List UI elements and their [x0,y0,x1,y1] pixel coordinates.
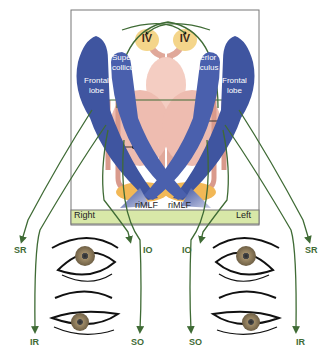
muscle-label-sr-left-eye: SR [305,245,318,255]
muscle-label-io-left-eye: IO [182,245,192,255]
nucleus-iv-right-label: IV [175,32,195,44]
right-eye-upgaze [52,238,118,281]
superior-colliculus-left-label: Superior colliculus [112,53,144,73]
frontal-lobe-left-label: Frontal lobe [84,76,109,96]
left-eye-upgaze [213,238,279,281]
frontal-lobe-right-label: Frontal lobe [222,76,247,96]
muscle-label-so-left-eye: SO [189,337,202,347]
muscle-label-so-right-eye: SO [131,337,144,347]
muscle-label-io-right-eye: IO [143,245,153,255]
muscle-label-sr-right-eye: SR [14,245,27,255]
nucleus-iv-left-label: IV [137,32,157,44]
muscle-label-ir-left-eye: IR [296,337,305,347]
side-label-right: Right [74,210,95,220]
muscle-label-ir-right-eye: IR [30,337,39,347]
side-bar [71,210,259,224]
side-label-left: Left [236,210,251,220]
superior-colliculus-right-label: Superior colliculus [186,53,218,73]
right-eye-downgaze [52,292,118,335]
vertical-gaze-diagram [0,0,331,358]
rimlf-left-label: riMLF [135,200,158,210]
rimlf-right-label: riMLF [168,200,191,210]
left-eye-downgaze [213,292,279,335]
